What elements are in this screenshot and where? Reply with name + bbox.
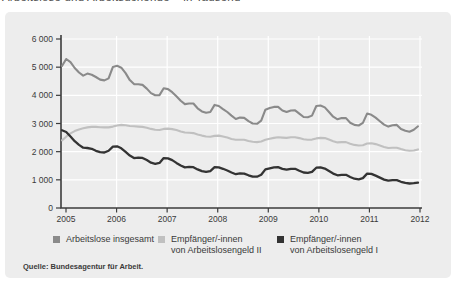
y-axis-label: 0 xyxy=(48,203,53,213)
legend-swatch-alg2 xyxy=(158,236,165,243)
legend-item-insgesamt: Arbeitslose insgesamt xyxy=(53,234,154,245)
y-axis-label: 5 000 xyxy=(32,62,54,72)
x-axis-label: 2008 xyxy=(208,214,227,224)
chart-panel: 01 0002 0003 0004 0005 0006 000200520062… xyxy=(5,12,451,278)
legend-item-alg2: Empfänger/-innen von Arbeitslosengeld II xyxy=(158,234,262,256)
data-line-alg1 xyxy=(62,130,418,183)
legend-label-alg2: Empfänger/-innen von Arbeitslosengeld II xyxy=(171,234,262,256)
x-axis-label: 2011 xyxy=(360,214,379,224)
y-axis-label: 3 000 xyxy=(32,119,54,129)
legend-swatch-insgesamt xyxy=(53,236,60,243)
legend-label-alg1: Empfänger/-innen von Arbeitslosengeld I xyxy=(290,234,378,256)
legend-label-insgesamt: Arbeitslose insgesamt xyxy=(66,234,154,245)
chart-legend: Arbeitslose insgesamt Empfänger/-innen v… xyxy=(5,234,451,264)
y-axis-label: 2 000 xyxy=(32,147,54,157)
axis-lines xyxy=(61,35,422,208)
legend-swatch-alg1 xyxy=(277,236,284,243)
clipped-heading: Arbeitslose und Arbeitsuchende – in Taus… xyxy=(2,0,241,3)
x-axis-label: 2010 xyxy=(309,214,328,224)
y-axis-label: 6 000 xyxy=(32,34,54,44)
y-axis-label: 1 000 xyxy=(32,175,54,185)
line-chart: 01 0002 0003 0004 0005 0006 000200520062… xyxy=(5,12,451,232)
x-axis-label: 2012 xyxy=(411,214,430,224)
x-axis-label: 2009 xyxy=(259,214,278,224)
x-axis-label: 2006 xyxy=(107,214,126,224)
legend-item-alg1: Empfänger/-innen von Arbeitslosengeld I xyxy=(277,234,378,256)
source-note: Quelle: Bundesagentur für Arbeit. xyxy=(23,262,143,271)
x-axis-label: 2005 xyxy=(57,214,76,224)
y-axis-label: 4 000 xyxy=(32,90,54,100)
x-axis-label: 2007 xyxy=(158,214,177,224)
